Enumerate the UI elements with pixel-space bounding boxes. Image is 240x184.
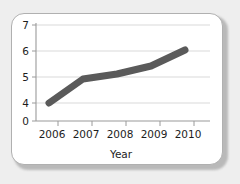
x-axis-title: Year	[109, 148, 133, 160]
line-chart: 7 6 5 4 0 2006 2007 2008 2009	[11, 13, 225, 167]
y-axis-ticks	[32, 25, 36, 121]
x-tick-label-2007: 2007	[73, 128, 100, 140]
y-tick-label-0: 0	[22, 115, 29, 127]
x-tick-label-2006: 2006	[39, 128, 66, 140]
x-tick-label-2010: 2010	[175, 128, 202, 140]
y-tick-label-4: 4	[22, 97, 29, 109]
x-axis-ticks	[58, 121, 194, 126]
y-tick-label-7: 7	[22, 19, 29, 31]
series-line	[49, 50, 185, 103]
y-axis-labels: 7 6 5 4 0	[22, 19, 29, 127]
x-axis-labels: 2006 2007 2008 2009 2010	[39, 128, 202, 140]
x-tick-label-2008: 2008	[107, 128, 134, 140]
data-series	[49, 50, 185, 103]
screenshot-root: 7 6 5 4 0 2006 2007 2008 2009	[0, 0, 240, 184]
y-tick-label-5: 5	[22, 71, 29, 83]
y-tick-label-6: 6	[22, 45, 29, 57]
x-tick-label-2009: 2009	[141, 128, 168, 140]
chart-canvas: 7 6 5 4 0 2006 2007 2008 2009	[11, 13, 225, 167]
